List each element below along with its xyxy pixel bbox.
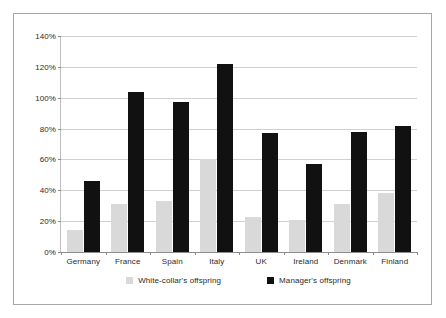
bar-group [284,36,329,252]
bar-group [106,36,151,252]
bar [262,133,278,252]
bar [395,126,411,253]
x-tick-mark [239,252,240,255]
chart-frame: 0%20%40%60%80%100%120%140% GermanyFrance… [13,13,432,305]
x-tick-mark [195,252,196,255]
legend-label: White-collar's offspring [138,276,221,285]
x-tick-mark [417,252,418,255]
bar [67,230,83,252]
x-tick-mark [328,252,329,255]
x-tick-label: Ireland [284,257,329,266]
bar [173,102,189,252]
bar [84,181,100,252]
bar-group [195,36,240,252]
x-tick-mark [150,252,151,255]
bars-layer [61,36,417,252]
x-tick-label: Italy [195,257,240,266]
bar [128,92,144,252]
x-tick-label: France [106,257,151,266]
bar [111,204,127,252]
legend-swatch-icon [126,277,133,284]
bar [156,201,172,252]
y-tick-label: 120% [35,62,56,71]
bar [351,132,367,252]
x-tick-mark [61,252,62,255]
y-tick-label: 100% [35,93,56,102]
plot-area: 0%20%40%60%80%100%120%140% GermanyFrance… [60,36,417,253]
x-tick-mark [373,252,374,255]
bar [245,217,261,252]
y-tick-label: 0% [44,248,56,257]
bar [289,220,305,252]
x-tick-label: Denmark [328,257,373,266]
y-tick-label: 20% [40,217,56,226]
x-tick-mark [284,252,285,255]
x-tick-label: Finland [373,257,418,266]
y-tick-label: 40% [40,186,56,195]
bar [334,204,350,252]
x-tick-label: Germany [61,257,106,266]
bar-group [373,36,418,252]
legend-item[interactable]: White-collar's offspring [126,276,221,285]
bar [200,159,216,252]
x-tick-mark [106,252,107,255]
bar-group [61,36,106,252]
y-tick-label: 60% [40,155,56,164]
y-tick-label: 80% [40,124,56,133]
bar [217,64,233,252]
chart-legend: White-collar's offspringManager's offspr… [60,276,417,285]
y-tick-label: 140% [35,32,56,41]
x-tick-label: Spain [150,257,195,266]
legend-item[interactable]: Manager's offspring [267,276,351,285]
bar-group [239,36,284,252]
legend-label: Manager's offspring [279,276,351,285]
legend-swatch-icon [267,277,274,284]
bar-group [150,36,195,252]
bar [306,164,322,252]
bar-group [328,36,373,252]
x-tick-label: UK [239,257,284,266]
bar [378,193,394,252]
